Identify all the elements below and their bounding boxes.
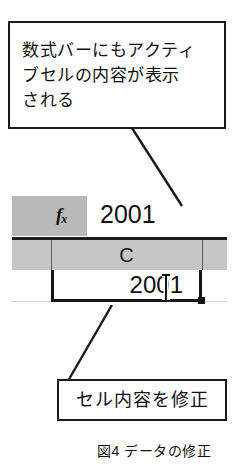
figure-container: 数式バーにもアクティ ブセルの内容が表示 される fx 2001 C 2001 [0,0,235,465]
leader-line-top [130,128,200,208]
callout-line-1: 数式バーにもアクティ [22,38,224,63]
callout-line-3: される [22,88,224,113]
fx-icon-x: x [61,212,67,226]
callout-line-2: ブセルの内容が表示 [22,63,224,88]
column-header-c[interactable]: C [51,240,202,270]
leader-line-bottom [60,305,120,383]
fx-icon[interactable]: fx [56,204,68,226]
spreadsheet-screenshot: fx 2001 C 2001 [12,196,227,306]
formula-bar-left-pane [12,196,87,236]
i-beam-text-cursor [160,274,172,302]
callout-box-formula-bar: 数式バーにもアクティ ブセルの内容が表示 される [8,21,226,129]
callout-bottom-text: セル内容を修正 [76,390,209,410]
fill-handle[interactable] [198,297,205,304]
figure-caption: 図4 データの修正 [97,440,211,460]
active-cell[interactable]: 2001 [51,270,202,302]
active-cell-value: 2001 [130,271,183,299]
column-divider-right [202,240,203,270]
callout-box-cell-edit: セル内容を修正 [57,379,227,421]
